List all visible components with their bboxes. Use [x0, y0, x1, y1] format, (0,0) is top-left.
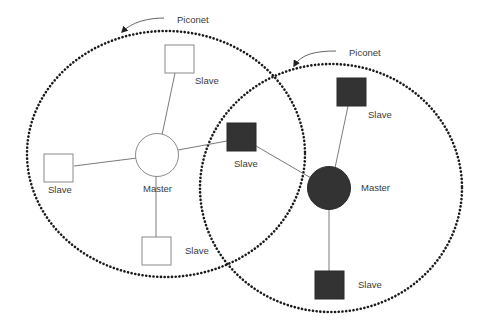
left-slave-left-node[interactable]	[44, 154, 73, 182]
bridge-slave-label: Slave	[234, 158, 258, 169]
bridge-slave-node[interactable]	[227, 123, 256, 151]
left-piconet-label: Piconet	[177, 14, 209, 25]
left-slave-left-label: Slave	[48, 184, 72, 195]
right-slave-bottom-node[interactable]	[315, 271, 344, 299]
right-master-label: Master	[361, 182, 390, 193]
right-slave-top-node[interactable]	[337, 78, 366, 106]
right-slave-bottom-label: Slave	[358, 279, 382, 290]
left-slave-top-label: Slave	[195, 75, 219, 86]
left-master-node[interactable]	[136, 134, 179, 177]
link-left-master-left-slave	[74, 158, 137, 166]
right-piconet-label: Piconet	[349, 47, 381, 58]
right-master-node[interactable]	[308, 167, 351, 210]
link-left-master-bridge-slave	[178, 141, 227, 150]
link-right-master-top-slave	[335, 106, 348, 168]
right-slave-top-label: Slave	[368, 109, 392, 120]
left-slave-top-node[interactable]	[165, 45, 194, 73]
left-slave-bottom-label: Slave	[185, 245, 209, 256]
link-left-master-top-slave	[162, 73, 175, 135]
left-piconet-arrow-icon	[122, 18, 164, 32]
scatternet-diagram: Piconet Piconet Slave Slave Master Slave…	[0, 0, 482, 328]
links	[74, 73, 348, 271]
left-master-label: Master	[143, 183, 172, 194]
link-bridge-slave-right-master	[256, 146, 311, 178]
left-slave-bottom-node[interactable]	[142, 237, 171, 265]
